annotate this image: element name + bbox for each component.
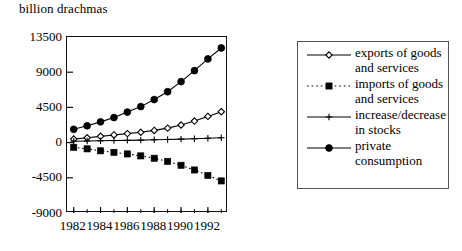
legend-item[interactable]: exports of goods and services: [298, 46, 450, 75]
x-tick-label: 1986: [113, 219, 139, 232]
x-tick-label: 1984: [87, 219, 113, 232]
chart-legend: exports of goods and servicesimports of …: [297, 41, 449, 189]
x-tick-label: 1990: [167, 219, 193, 232]
x-tick-label: 1992: [194, 219, 220, 232]
legend-marker-plus-icon: [304, 109, 354, 125]
legend-label: increase/decrease in stocks: [355, 108, 446, 137]
legend-item[interactable]: imports of goods and services: [298, 77, 450, 106]
chart-root: billion drachmas 13500900045000-4500-900…: [0, 0, 462, 251]
legend-item[interactable]: increase/decrease in stocks: [298, 108, 450, 137]
x-tick-label: 1982: [60, 219, 86, 232]
legend-items: exports of goods and servicesimports of …: [298, 46, 450, 170]
legend-label: exports of goods and services: [355, 46, 442, 75]
legend-label: private consumption: [355, 139, 422, 168]
legend-marker-filled-circle-icon: [304, 140, 354, 156]
legend-marker-open-diamond-icon: [304, 47, 354, 63]
legend-item[interactable]: private consumption: [298, 139, 450, 168]
x-tick-label: 1988: [140, 219, 166, 232]
legend-label: imports of goods and services: [355, 77, 443, 106]
legend-marker-filled-square-icon: [304, 78, 354, 94]
